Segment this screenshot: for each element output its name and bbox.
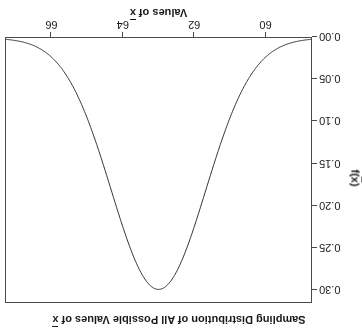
x-axis-tick <box>265 32 266 37</box>
y-axis-title-suffix: ) <box>349 183 361 187</box>
x-axis-title-text: Values of <box>136 7 187 19</box>
y-axis-tick <box>312 247 317 248</box>
plot-area <box>6 38 311 302</box>
chart-title-variable: x <box>52 314 58 327</box>
y-axis-tick-label: 0.10 <box>319 115 340 128</box>
y-axis-tick-label: 0.20 <box>319 199 340 212</box>
x-axis-tick <box>122 32 123 37</box>
chart-title: Sampling Distribution of All Possible Va… <box>0 314 358 326</box>
x-axis-tick-label: 62 <box>188 18 200 31</box>
y-axis-tick <box>312 289 317 290</box>
distribution-curve-svg <box>6 38 311 302</box>
normal-distribution-curve <box>6 39 311 289</box>
y-axis-tick <box>312 36 317 37</box>
y-axis-tick-label: 0.15 <box>319 157 340 170</box>
x-axis-tick <box>50 32 51 37</box>
y-axis-tick <box>312 120 317 121</box>
y-axis-tick-label: 0.25 <box>319 242 340 255</box>
y-axis-tick <box>312 163 317 164</box>
x-axis-title: Values of x <box>5 7 312 19</box>
x-axis-tick-label: 64 <box>117 18 129 31</box>
y-axis: 0.000.050.100.150.200.250.30 <box>312 37 348 303</box>
y-axis-tick-label: 0.30 <box>319 284 340 297</box>
y-axis-tick <box>312 78 317 79</box>
y-axis-tick-label: 0.00 <box>319 31 340 44</box>
y-axis-tick-label: 0.05 <box>319 73 340 86</box>
x-axis-tick <box>193 32 194 37</box>
y-axis-title: f(x) <box>349 169 361 186</box>
chart-title-text: Sampling Distribution of All Possible Va… <box>59 314 306 326</box>
x-axis-tick-label: 60 <box>259 18 271 31</box>
x-axis-tick-label: 66 <box>45 18 57 31</box>
plot-frame <box>5 37 312 303</box>
y-axis-tick <box>312 205 317 206</box>
x-axis-title-variable: x <box>130 7 136 20</box>
